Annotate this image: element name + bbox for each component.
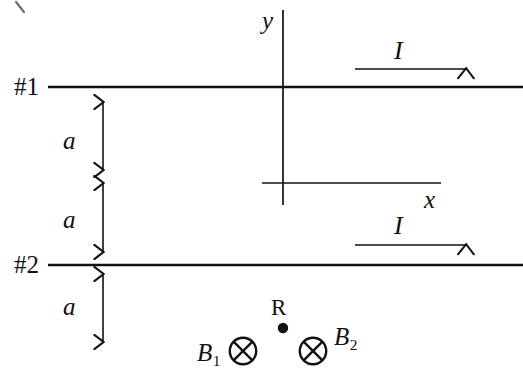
b1-field-label: B1 — [197, 340, 221, 368]
field-point-marker — [278, 323, 288, 333]
field-point-label: R — [271, 296, 286, 319]
b2-subscript: 2 — [350, 336, 358, 353]
dimension-label-a1: a — [63, 128, 76, 153]
dimension-label-a2: a — [63, 207, 76, 232]
y-axis-label: y — [262, 8, 273, 33]
physics-diagram-figure: #1 #2 a a a y x I I R B1 B2 — [0, 0, 523, 388]
scan-artifact-mark — [16, 2, 24, 12]
wire-1-tag: #1 — [14, 74, 39, 99]
current-label-wire-2: I — [394, 213, 403, 239]
wire-2-tag: #2 — [14, 252, 39, 277]
dimension-label-a3: a — [63, 294, 76, 319]
b2-into-page-icon — [300, 338, 326, 364]
x-axis-label: x — [424, 187, 435, 212]
b1-base: B — [197, 339, 212, 366]
b2-field-label: B2 — [334, 324, 358, 352]
b1-into-page-icon — [230, 338, 256, 364]
b2-base: B — [334, 323, 349, 350]
diagram-canvas — [0, 0, 523, 388]
b1-subscript: 1 — [213, 352, 221, 369]
current-label-wire-1: I — [394, 38, 403, 64]
